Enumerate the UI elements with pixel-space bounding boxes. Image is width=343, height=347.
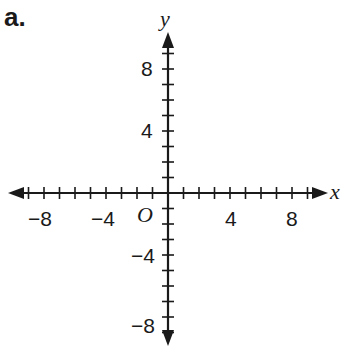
y-tick-label-neg4: −4 <box>131 244 155 267</box>
x-axis-left-arrow-icon <box>8 187 24 199</box>
x-tick-label-neg4: −4 <box>91 207 115 230</box>
x-axis-label: x <box>329 179 340 204</box>
coordinate-plane: x y O −8 −4 4 8 8 4 −4 −8 <box>0 0 343 347</box>
y-axis-top-arrow-icon <box>162 32 174 48</box>
x-tick-label-4: 4 <box>225 207 237 230</box>
x-axis-right-arrow-icon <box>312 187 328 199</box>
origin-label: O <box>137 202 153 227</box>
y-tick-label-8: 8 <box>141 57 153 80</box>
x-tick-label-neg8: −8 <box>28 207 52 230</box>
y-axis-label: y <box>158 6 170 31</box>
x-tick-label-8: 8 <box>286 207 298 230</box>
y-tick-label-4: 4 <box>141 119 153 142</box>
y-tick-label-neg8: −8 <box>131 314 155 337</box>
y-axis-bottom-arrow-icon <box>162 330 174 346</box>
